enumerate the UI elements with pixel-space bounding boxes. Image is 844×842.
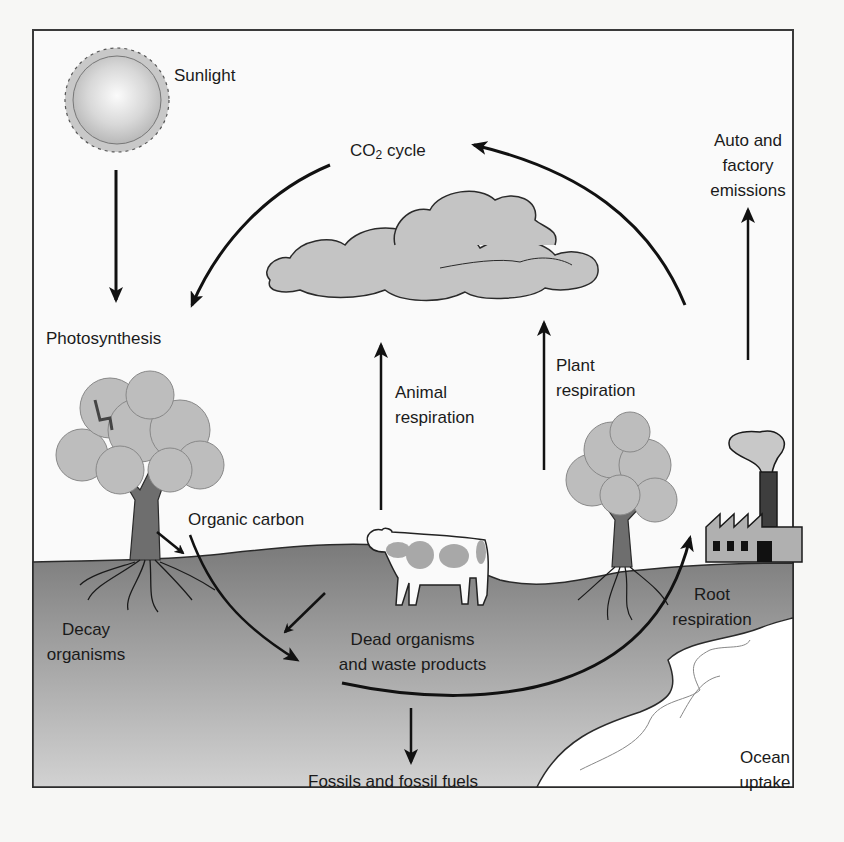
label-line: organisms bbox=[36, 642, 136, 667]
label-line: and waste products bbox=[320, 652, 505, 677]
label-line: Decay bbox=[36, 617, 136, 642]
label-fossils: Fossils and fossil fuels bbox=[308, 769, 478, 794]
label-line: Animal bbox=[395, 380, 474, 405]
label-plant-respiration: Plant respiration bbox=[556, 353, 635, 403]
label-line: uptake bbox=[730, 770, 800, 795]
label-line: Root bbox=[662, 582, 762, 607]
label-ocean-uptake: Ocean uptake bbox=[730, 745, 800, 795]
label-organic-carbon: Organic carbon bbox=[188, 507, 304, 532]
sun-icon bbox=[65, 48, 169, 152]
label-line: Plant bbox=[556, 353, 635, 378]
label-root-respiration: Root respiration bbox=[662, 582, 762, 632]
label-line: factory bbox=[702, 153, 794, 178]
label-auto-factory-emissions: Auto and factory emissions bbox=[702, 128, 794, 203]
label-line: Dead organisms bbox=[320, 627, 505, 652]
label-sunlight: Sunlight bbox=[174, 63, 235, 88]
label-photosynthesis: Photosynthesis bbox=[46, 326, 161, 351]
co2-suffix: cycle bbox=[382, 141, 425, 160]
label-line: respiration bbox=[662, 607, 762, 632]
label-line: Auto and bbox=[702, 128, 794, 153]
label-line: Ocean bbox=[730, 745, 800, 770]
label-co2-cycle: CO2 cycle bbox=[350, 138, 426, 163]
co2-prefix: CO bbox=[350, 141, 376, 160]
label-line: respiration bbox=[395, 405, 474, 430]
label-line: respiration bbox=[556, 378, 635, 403]
label-line: emissions bbox=[702, 178, 794, 203]
label-dead-organisms: Dead organisms and waste products bbox=[320, 627, 505, 677]
label-decay-organisms: Decay organisms bbox=[36, 617, 136, 667]
label-animal-respiration: Animal respiration bbox=[395, 380, 474, 430]
